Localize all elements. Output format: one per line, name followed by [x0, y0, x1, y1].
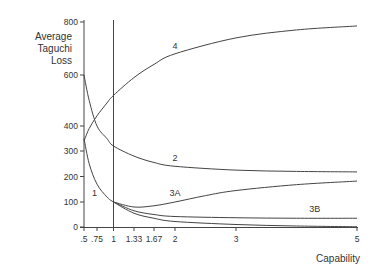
y-axis-title-line-2: Taguchi: [38, 43, 72, 54]
y-axis-title-line-3: Loss: [51, 55, 72, 66]
curve-label-3a: 3A: [169, 188, 180, 198]
curve-label-2: 2: [172, 153, 177, 163]
y-tick-label: 300: [64, 146, 78, 156]
y-tick-label: 600: [64, 70, 78, 80]
curve-label-4: 4: [172, 41, 177, 51]
x-tick-label: 2: [173, 234, 178, 244]
curve-4: [84, 26, 357, 141]
y-axis-title: Average Taguchi Loss: [35, 31, 73, 66]
curve-3b: [114, 202, 358, 218]
taguchi-loss-chart: Average Taguchi Loss Capability 01002003…: [0, 0, 378, 275]
curve-3a: [114, 181, 358, 207]
y-tick-label: 400: [64, 121, 78, 131]
x-tick-label: 1: [111, 234, 116, 244]
x-tick-label: 1.33: [126, 234, 143, 244]
y-tick-label: 100: [64, 197, 78, 207]
y-tick-label: 0: [73, 222, 78, 232]
x-tick-label: 5: [355, 234, 360, 244]
curve-labels: 123A3B4: [92, 41, 320, 215]
x-axis-title: Capability: [316, 253, 360, 264]
y-axis-title-line-1: Average: [35, 31, 73, 42]
x-tick-label: 3: [234, 234, 239, 244]
curves: [84, 26, 357, 227]
y-tick-label: 800: [64, 17, 78, 27]
y-tick-label: 200: [64, 172, 78, 182]
x-tick-label: 1.67: [146, 234, 163, 244]
x-tick-label: .75: [91, 234, 103, 244]
curve-label-1: 1: [92, 188, 97, 198]
x-tick-label: .5: [80, 234, 87, 244]
curve-label-3b: 3B: [309, 204, 320, 214]
curve-2: [84, 75, 357, 172]
